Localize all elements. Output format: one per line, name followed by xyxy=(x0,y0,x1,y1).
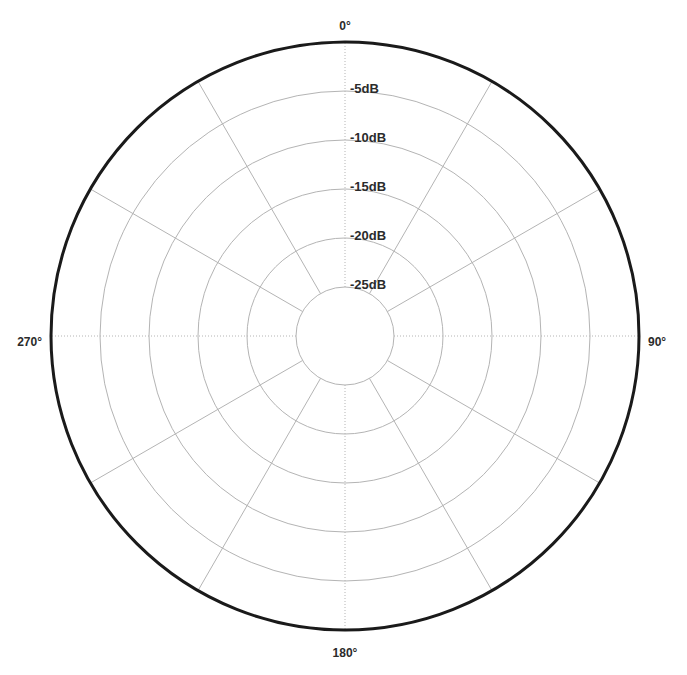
grid-ring xyxy=(149,140,541,532)
grid-ring xyxy=(198,189,492,483)
angular-axis-tick-labels: 0°90°180°270° xyxy=(17,19,666,660)
grid-ring xyxy=(100,91,590,581)
angular-tick-label: 90° xyxy=(648,335,666,349)
angular-tick-label: 270° xyxy=(17,335,42,349)
angular-tick-label: 0° xyxy=(339,19,351,33)
radial-tick-label: -10dB xyxy=(350,130,386,145)
radial-grid-rings xyxy=(100,91,590,581)
grid-ring xyxy=(296,287,394,385)
polar-chart: -5dB-10dB-15dB-20dB-25dB 0°90°180°270° xyxy=(0,0,687,675)
radial-tick-label: -15dB xyxy=(350,179,386,194)
radial-tick-label: -5dB xyxy=(350,81,379,96)
grid-ring xyxy=(247,238,443,434)
polar-plot-svg: -5dB-10dB-15dB-20dB-25dB 0°90°180°270° xyxy=(0,0,687,675)
angular-grid-spokes xyxy=(51,42,639,630)
radial-tick-label: -25dB xyxy=(350,277,386,292)
radial-axis-tick-labels: -5dB-10dB-15dB-20dB-25dB xyxy=(350,81,386,292)
radial-tick-label: -20dB xyxy=(350,228,386,243)
angular-tick-label: 180° xyxy=(333,646,358,660)
